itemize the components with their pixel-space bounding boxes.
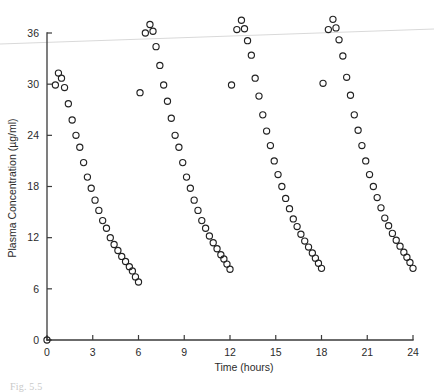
data-point (135, 279, 141, 285)
data-point (252, 75, 258, 81)
data-point (187, 185, 193, 191)
data-point (61, 84, 67, 90)
data-point (244, 38, 250, 44)
data-point (333, 25, 339, 31)
svg-text:36: 36 (27, 27, 39, 39)
data-point (150, 28, 156, 34)
data-point (234, 26, 240, 32)
svg-text:24: 24 (27, 129, 39, 141)
data-point (206, 233, 212, 239)
data-point (168, 115, 174, 121)
data-point (363, 158, 369, 164)
scan-artifact-line (0, 29, 434, 44)
data-point (336, 37, 342, 43)
svg-text:6: 6 (33, 283, 39, 295)
data-point (195, 207, 201, 213)
data-point (52, 82, 58, 88)
data-point (340, 53, 346, 59)
data-point (410, 265, 416, 271)
data-point (103, 225, 109, 231)
data-point (164, 98, 170, 104)
data-point (210, 240, 216, 246)
data-point (382, 215, 388, 221)
data-point (100, 218, 106, 224)
axes (47, 33, 413, 340)
data-point (153, 44, 159, 50)
y-tick-labels: 061218243036 (27, 27, 39, 346)
data-point (111, 241, 117, 247)
data-point (214, 246, 220, 252)
data-point (294, 223, 300, 229)
data-point (115, 247, 121, 253)
axis-ticks (47, 33, 413, 340)
data-point (264, 128, 270, 134)
data-point (157, 62, 163, 68)
data-point (77, 144, 83, 150)
data-point (370, 183, 376, 189)
svg-text:3: 3 (90, 346, 96, 358)
data-point (81, 160, 87, 166)
data-point (203, 225, 209, 231)
data-point (107, 235, 113, 241)
data-point (73, 132, 79, 138)
data-point (88, 185, 94, 191)
data-point (142, 30, 148, 36)
data-point (69, 117, 75, 123)
data-point (256, 93, 262, 99)
data-point (290, 216, 296, 222)
x-tick-labels: 03691215182124 (44, 346, 419, 358)
data-point (351, 112, 357, 118)
svg-text:12: 12 (224, 346, 236, 358)
data-point (393, 237, 399, 243)
data-point (344, 74, 350, 80)
svg-text:6: 6 (136, 346, 142, 358)
data-point (227, 266, 233, 272)
data-point (302, 238, 308, 244)
data-point (378, 205, 384, 211)
data-point (191, 197, 197, 203)
data-point (283, 195, 289, 201)
data-point (325, 26, 331, 32)
data-point (58, 75, 64, 81)
data-point (180, 160, 186, 166)
data-point (305, 244, 311, 250)
data-point (397, 243, 403, 249)
y-axis-title: Plasma Concentration (µg/ml) (6, 118, 18, 257)
data-point (320, 80, 326, 86)
data-point (355, 127, 361, 133)
data-point (260, 112, 266, 118)
data-point (96, 207, 102, 213)
svg-text:30: 30 (27, 78, 39, 90)
data-point (330, 16, 336, 22)
data-point (389, 230, 395, 236)
svg-text:24: 24 (407, 346, 419, 358)
data-point (286, 206, 292, 212)
svg-text:21: 21 (361, 346, 373, 358)
data-point (241, 26, 247, 32)
data-point (318, 265, 324, 271)
x-axis-title: Time (hours) (214, 361, 273, 373)
data-point (374, 194, 380, 200)
data-point (183, 174, 189, 180)
data-point (176, 144, 182, 150)
data-point (298, 231, 304, 237)
data-point (84, 174, 90, 180)
data-point (275, 171, 281, 177)
svg-text:12: 12 (27, 231, 39, 243)
data-point (386, 223, 392, 229)
data-point (347, 92, 353, 98)
data-point (271, 158, 277, 164)
data-point (279, 183, 285, 189)
data-point (129, 268, 135, 274)
svg-text:18: 18 (27, 180, 39, 192)
svg-text:9: 9 (181, 346, 187, 358)
data-point (161, 82, 167, 88)
data-point (248, 52, 254, 58)
data-point (238, 17, 244, 23)
data-point (199, 218, 205, 224)
data-point (137, 90, 143, 96)
svg-text:15: 15 (270, 346, 282, 358)
data-point (366, 171, 372, 177)
data-point (228, 82, 234, 88)
